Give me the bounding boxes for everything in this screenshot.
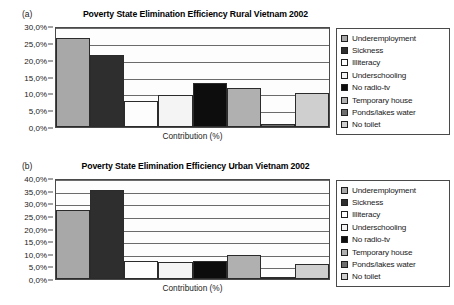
bar-slot [158, 180, 192, 279]
chart-panel-b: (b) Poverty State Elimination Efficiency… [0, 152, 454, 304]
y-axis-tick-label: 15,0% [24, 73, 47, 82]
panel-label-b: (b) [22, 161, 32, 171]
y-axis-tick-label: 35,0% [24, 187, 47, 196]
bar-underschooling [158, 95, 192, 127]
y-axis-tick-label: 5,0% [29, 107, 47, 116]
y-axis-tick-label: 0,0% [29, 276, 47, 285]
legend-item: Sickness [341, 196, 446, 208]
legend-item: Underschooling [341, 221, 446, 233]
bar-no-radio-tv [193, 261, 227, 279]
y-axis-tick-mark [48, 216, 53, 217]
y-axis-tick-label: 25,0% [24, 212, 47, 221]
y-axis-tick-label: 5,0% [29, 263, 47, 272]
legend-item-label: No toilet [352, 120, 380, 129]
y-axis-tick-mark [48, 204, 53, 205]
bar-illiteracy [124, 261, 158, 279]
legend-swatch-icon [341, 236, 348, 243]
y-axis-tick-mark [48, 60, 53, 61]
bar-slot [193, 180, 227, 279]
y-axis-tick-label: 30,0% [24, 23, 47, 32]
legend-item: Temporary house [341, 94, 446, 106]
legend-item: Illiteracy [341, 209, 446, 221]
bar-slot [56, 28, 90, 127]
legend-item: Underschooling [341, 69, 446, 81]
y-axis-tick-label: 0,0% [29, 124, 47, 133]
legend-item-label: Temporary house [352, 248, 412, 257]
legend-swatch-icon [341, 273, 348, 280]
legend-swatch-icon [341, 59, 348, 66]
y-axis-tick-label: 25,0% [24, 39, 47, 48]
bar-slot [261, 180, 295, 279]
legend-item-label: Underschooling [352, 71, 406, 80]
legend-a: UnderemploymentSicknessIlliteracyUndersc… [336, 28, 450, 135]
legend-item: Sickness [341, 44, 446, 56]
x-axis-label-a: Contribution (%) [55, 131, 330, 141]
legend-item-label: No radio-tv [352, 83, 390, 92]
legend-swatch-icon [341, 109, 348, 116]
y-axis-tick-mark [48, 128, 53, 129]
bar-slot [90, 180, 124, 279]
bar-series-a [56, 28, 329, 127]
y-axis-tick-mark [48, 27, 53, 28]
bar-series-b [56, 180, 329, 279]
bar-sickness [90, 190, 124, 279]
figure-container: (a) Poverty State Elimination Efficiency… [0, 0, 454, 305]
legend-swatch-icon [341, 72, 348, 79]
bar-slot [158, 28, 192, 127]
chart-title-a: Poverty State Elimination Efficiency Rur… [58, 9, 333, 19]
legend-item-label: Temporary house [352, 96, 412, 105]
legend-b: UnderemploymentSicknessIlliteracyUndersc… [336, 180, 450, 287]
legend-item: Ponds/lakes water [341, 258, 446, 270]
y-axis-tick-label: 15,0% [24, 238, 47, 247]
bar-slot [295, 28, 329, 127]
chart-panel-a: (a) Poverty State Elimination Efficiency… [0, 0, 454, 152]
panel-label-a: (a) [22, 9, 32, 19]
y-axis-tick-mark [48, 242, 53, 243]
legend-item: Underemployment [341, 184, 446, 196]
y-axis-tick-mark [48, 179, 53, 180]
legend-item-label: Ponds/lakes water [352, 108, 416, 117]
bar-underschooling [158, 262, 192, 279]
y-axis-tick-mark [48, 191, 53, 192]
legend-swatch-icon [341, 35, 348, 42]
y-axis-tick-label: 20,0% [24, 56, 47, 65]
legend-item: No radio-tv [341, 234, 446, 246]
legend-item: No radio-tv [341, 82, 446, 94]
legend-swatch-icon [341, 187, 348, 194]
y-axis-tick-label: 10,0% [24, 90, 47, 99]
legend-item: Temporary house [341, 246, 446, 258]
bar-illiteracy [124, 101, 158, 127]
y-axis-tick-mark [48, 280, 53, 281]
bar-slot [56, 180, 90, 279]
legend-swatch-icon [341, 224, 348, 231]
bar-ponds-lakes-water [261, 277, 295, 279]
bar-underemployment [56, 38, 90, 127]
legend-item: No toilet [341, 271, 446, 283]
bar-no-toilet [295, 264, 329, 279]
legend-item-label: Sickness [352, 198, 383, 207]
bar-temporary-house [227, 255, 261, 279]
y-axis-tick-label: 30,0% [24, 200, 47, 209]
bar-slot [295, 180, 329, 279]
bar-underemployment [56, 210, 90, 279]
legend-swatch-icon [341, 211, 348, 218]
legend-item: Underemployment [341, 32, 446, 44]
bar-temporary-house [227, 88, 261, 127]
y-axis-tick-label: 20,0% [24, 225, 47, 234]
legend-item-label: Ponds/lakes water [352, 260, 416, 269]
y-axis-tick-mark [48, 267, 53, 268]
legend-item-label: Sickness [352, 46, 383, 55]
legend-item: Ponds/lakes water [341, 106, 446, 118]
legend-swatch-icon [341, 249, 348, 256]
y-axis-b: 0,0%5,0%10,0%15,0%20,0%25,0%30,0%35,0%40… [0, 179, 53, 280]
legend-swatch-icon [341, 199, 348, 206]
legend-swatch-icon [341, 47, 348, 54]
legend-item-label: Underemployment [352, 186, 416, 195]
y-axis-tick-mark [48, 94, 53, 95]
legend-item: Illiteracy [341, 57, 446, 69]
bar-slot [124, 28, 158, 127]
bar-sickness [90, 55, 124, 127]
legend-swatch-icon [341, 97, 348, 104]
plot-area-b [55, 179, 330, 280]
bar-slot [193, 28, 227, 127]
